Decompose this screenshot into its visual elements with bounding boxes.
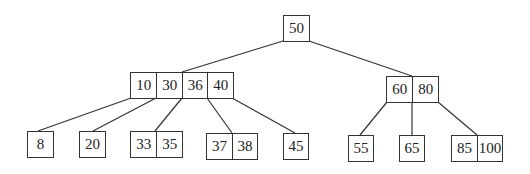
- edge-internal0-leaf0: [38, 98, 131, 131]
- key-cell: 80: [412, 77, 438, 102]
- key-cell: 35: [156, 132, 182, 157]
- edge-internal0-leaf4: [232, 98, 295, 133]
- leaf-node: 37 38: [206, 133, 258, 160]
- edge-internal0-leaf3: [207, 98, 232, 133]
- key-cell: 45: [284, 134, 308, 159]
- edge-internal0-leaf2: [155, 98, 182, 131]
- leaf-node: 33 35: [130, 131, 183, 158]
- leaf-node: 55: [348, 135, 374, 162]
- leaf-node: 65: [399, 135, 425, 162]
- leaf-node: 20: [79, 131, 106, 158]
- key-cell: 65: [400, 136, 424, 161]
- key-cell: 20: [80, 132, 105, 157]
- internal-node-right: 60 80: [386, 76, 439, 103]
- key-cell: 30: [156, 73, 182, 98]
- leaf-node: 8: [27, 131, 54, 158]
- internal-node-left: 10 30 36 40: [130, 72, 234, 99]
- key-cell: 60: [387, 77, 412, 102]
- edge-root-internal-0: [182, 41, 283, 72]
- key-cell: 100: [477, 136, 502, 161]
- key-cell: 36: [182, 73, 208, 98]
- leaf-node: 45: [283, 133, 309, 160]
- key-cell: 85: [452, 136, 477, 161]
- key-cell: 37: [207, 134, 232, 159]
- edge-internal0-leaf1: [93, 98, 156, 131]
- key-cell: 50: [284, 16, 309, 41]
- edge-root-internal-1: [309, 41, 412, 76]
- key-cell: 10: [131, 73, 156, 98]
- key-cell: 8: [28, 132, 53, 157]
- leaf-node: 85 100: [451, 135, 503, 162]
- edge-internal1-leaf5: [360, 102, 387, 135]
- key-cell: 40: [207, 73, 233, 98]
- key-cell: 38: [232, 134, 257, 159]
- edge-internal1-leaf7: [438, 102, 477, 135]
- key-cell: 33: [131, 132, 156, 157]
- key-cell: 55: [349, 136, 373, 161]
- root-node: 50: [283, 15, 310, 42]
